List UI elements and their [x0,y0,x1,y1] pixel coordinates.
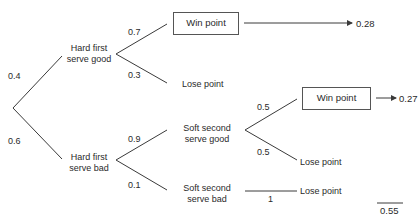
branch-good-lose [116,54,167,83]
branch-softgood-win [245,99,297,130]
outcome-win-point-1: Win point [173,12,239,35]
node-soft-second-good: Soft second serve good [172,123,242,145]
outcome-lose-point-1: Lose point [182,79,224,90]
branch-bad-softbad [116,160,167,190]
node-hard-first-bad: Hard first serve bad [62,152,116,174]
branch-good-win [116,24,167,54]
prob-good-lose: 0.3 [128,70,141,81]
node-line2: serve bad [172,194,242,205]
prob-good-win: 0.7 [128,27,141,38]
node-line2: serve good [62,54,116,65]
prob-softgood-lose: 0.5 [257,147,270,158]
node-line1: Soft second [172,123,242,134]
node-line1: Hard first [62,152,116,163]
branch-root-good [13,56,62,108]
node-line1: Soft second [172,183,242,194]
branch-root-bad [13,108,62,159]
node-line2: serve bad [62,163,116,174]
branch-bad-softgood [116,130,167,160]
outcome-lose-point-2: Lose point [300,157,342,168]
outcome-win-point-2: Win point [302,87,371,110]
result-win-1: 0.28 [356,18,375,29]
prob-bad-softbad: 0.1 [128,180,141,191]
prob-bad-softgood: 0.9 [128,134,141,145]
node-line2: serve good [172,134,242,145]
outcome-lose-point-3: Lose point [300,186,342,197]
prob-root-bad: 0.6 [8,136,21,147]
total-probability: 0.55 [380,205,399,216]
node-line1: Hard first [62,43,116,54]
prob-softbad-lose: 1 [268,194,273,205]
prob-softgood-win: 0.5 [257,102,270,113]
result-win-2: 0.27 [399,93,418,104]
node-hard-first-good: Hard first serve good [62,43,116,65]
node-soft-second-bad: Soft second serve bad [172,183,242,205]
branch-softgood-lose [245,130,297,160]
prob-root-good: 0.4 [8,71,21,82]
